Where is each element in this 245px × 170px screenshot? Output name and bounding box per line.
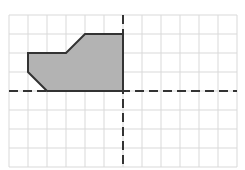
coordinate-grid-diagram (0, 0, 245, 170)
shaded-polygon (28, 34, 123, 91)
